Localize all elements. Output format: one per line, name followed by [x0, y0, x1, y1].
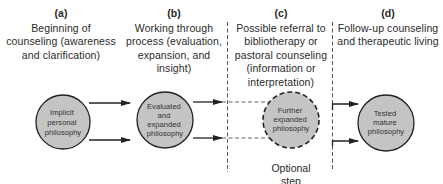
arrow-c-d-top	[333, 104, 359, 110]
stage-b-circle-line-4: philosophy	[147, 129, 184, 138]
stage-c-circle-line-3: philosophy	[273, 124, 310, 133]
stage-d-circle-line-1: Tested	[374, 109, 396, 118]
stage-d-circle-line-3: philosophy	[368, 127, 405, 136]
stage-a-circle: Implicit personal philosophy	[36, 95, 90, 149]
stage-b-circle-line-2: and	[158, 111, 171, 120]
svg-text:Evaluated and expa: Evaluated and expanded philosophy	[147, 102, 184, 138]
process-diagram: Implicit personal philosophy Evaluated a…	[0, 0, 443, 184]
optional-step-note: Optional step	[255, 162, 327, 184]
stage-b-circle-line-1: Evaluated	[147, 102, 181, 111]
stage-a-circle-line-1: Implicit	[50, 108, 75, 117]
stage-d-circle-line-2: mature	[373, 118, 397, 127]
stage-a-circle-line-3: philosophy	[45, 128, 82, 137]
stage-b-circle-line-3: expanded	[147, 120, 180, 129]
stage-a-circle-line-2: personal	[47, 118, 76, 127]
svg-text:Further expanded p: Further expanded philosophy	[273, 106, 310, 133]
stage-c-circle-line-2: expanded	[273, 115, 306, 124]
stage-b-circle: Evaluated and expanded philosophy	[137, 92, 193, 148]
arrow-c-d-bottom	[333, 141, 359, 146]
svg-text:Implicit personal: Implicit personal philosophy	[45, 108, 82, 137]
stage-d-circle: Tested mature philosophy	[358, 95, 414, 151]
stage-c-circle-line-1: Further	[278, 106, 303, 115]
stage-c-circle: Further expanded philosophy	[263, 92, 319, 148]
